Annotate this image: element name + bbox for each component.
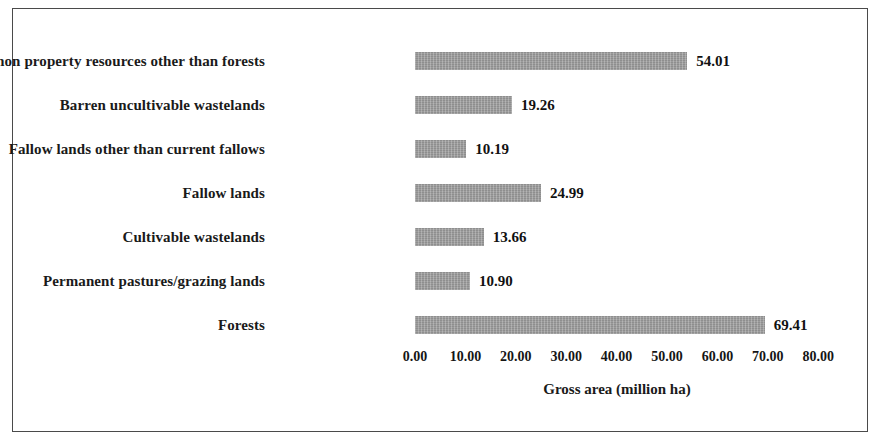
bar-container: 10.19 xyxy=(415,140,466,158)
bar-row: Permanent pastures/grazing lands10.90 xyxy=(13,259,867,303)
bar-row: Fallow lands other than current fallows1… xyxy=(13,127,867,171)
bar-value-label: 54.01 xyxy=(696,52,730,70)
bar-container: 19.26 xyxy=(415,96,512,114)
bar[interactable] xyxy=(415,140,466,158)
x-axis-title: Gross area (million ha) xyxy=(415,381,819,398)
bar-row: Forests69.41 xyxy=(13,303,867,347)
category-label: Cultivable wastelands xyxy=(122,215,265,259)
bar[interactable] xyxy=(415,52,687,70)
chart-frame: Total common property resources other th… xyxy=(12,8,868,432)
bar[interactable] xyxy=(415,96,512,114)
bar-container: 69.41 xyxy=(415,316,765,334)
bar-row: Fallow lands24.99 xyxy=(13,171,867,215)
bar-container: 24.99 xyxy=(415,184,541,202)
category-label: Permanent pastures/grazing lands xyxy=(43,259,265,303)
bar-value-label: 24.99 xyxy=(550,184,584,202)
bar[interactable] xyxy=(415,272,470,290)
bar-value-label: 19.26 xyxy=(521,96,555,114)
bar-value-label: 69.41 xyxy=(774,316,808,334)
bar[interactable] xyxy=(415,184,541,202)
x-axis-tick-labels: 0.0010.0020.0030.0040.0050.0060.0070.008… xyxy=(13,349,867,373)
x-tick-label: 80.00 xyxy=(788,349,848,365)
bar-row: Barren uncultivable wastelands19.26 xyxy=(13,83,867,127)
category-label: Fallow lands other than current fallows xyxy=(9,127,265,171)
bar-row: Cultivable wastelands13.66 xyxy=(13,215,867,259)
bar-container: 54.01 xyxy=(415,52,687,70)
bar-value-label: 10.19 xyxy=(475,140,509,158)
category-label: Forests xyxy=(218,303,265,347)
bar[interactable] xyxy=(415,316,765,334)
bar-row: Total common property resources other th… xyxy=(13,39,867,83)
bar-value-label: 13.66 xyxy=(493,228,527,246)
category-label: Barren uncultivable wastelands xyxy=(60,83,265,127)
bar-container: 10.90 xyxy=(415,272,470,290)
bar-value-label: 10.90 xyxy=(479,272,513,290)
bar-container: 13.66 xyxy=(415,228,484,246)
bar[interactable] xyxy=(415,228,484,246)
category-label: Fallow lands xyxy=(183,171,265,215)
category-label: Total common property resources other th… xyxy=(0,39,265,83)
